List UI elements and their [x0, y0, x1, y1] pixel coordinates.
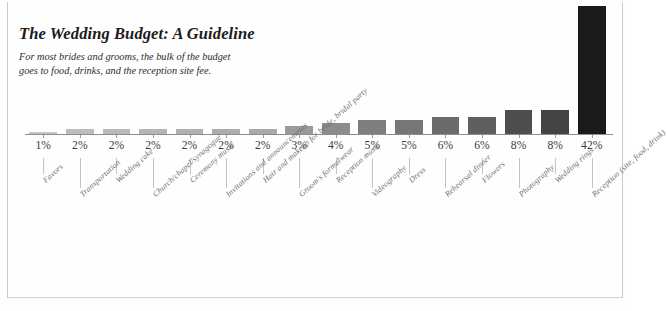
label-leader-line — [153, 158, 154, 188]
label-leader-line — [555, 158, 556, 174]
bar-value-label: 1% — [25, 139, 62, 152]
category-label: Photography — [517, 162, 556, 198]
bar-value-label: 6% — [427, 139, 464, 152]
bar — [395, 120, 423, 135]
x-axis-tick — [482, 135, 483, 138]
x-axis-tick — [519, 135, 520, 138]
bar-value-label: 5% — [391, 139, 428, 152]
category-label: Favors — [41, 162, 65, 185]
bar — [358, 120, 386, 135]
bar — [578, 6, 606, 135]
x-axis-tick — [190, 135, 191, 138]
bar-value-label: 2% — [62, 139, 99, 152]
label-leader-line — [372, 158, 373, 188]
x-axis-tick — [409, 135, 410, 138]
bar — [432, 117, 460, 135]
label-leader-line — [445, 158, 446, 188]
x-axis-tick — [555, 135, 556, 138]
label-leader-line — [299, 158, 300, 188]
category-label: Dress — [407, 165, 428, 185]
bar — [468, 117, 496, 135]
frame-bottom-rule — [7, 297, 623, 298]
x-axis-tick — [372, 135, 373, 138]
bar-value-label: 8% — [500, 139, 537, 152]
x-axis-tick — [43, 135, 44, 138]
x-axis-tick — [226, 135, 227, 138]
label-leader-line — [409, 158, 410, 174]
label-leader-line — [592, 158, 593, 188]
frame-left-rule — [7, 2, 8, 298]
x-axis-tick — [445, 135, 446, 138]
bar-plot-area — [25, 6, 610, 135]
x-axis-tick — [592, 135, 593, 138]
x-axis-tick — [80, 135, 81, 138]
bar-value-label: 8% — [537, 139, 574, 152]
x-axis-tick — [263, 135, 264, 138]
bar-value-label: 6% — [464, 139, 501, 152]
label-leader-line — [43, 158, 44, 174]
label-leader-line — [80, 158, 81, 188]
bar-value-label: 2% — [98, 139, 135, 152]
x-axis-tick — [116, 135, 117, 138]
bar — [541, 110, 569, 135]
frame-right-rule — [622, 2, 623, 298]
x-axis-tick — [336, 135, 337, 138]
label-leader-line — [226, 158, 227, 188]
bar — [505, 110, 533, 135]
label-leader-line — [519, 158, 520, 188]
x-axis-tick — [153, 135, 154, 138]
category-label: Videography — [370, 163, 408, 199]
